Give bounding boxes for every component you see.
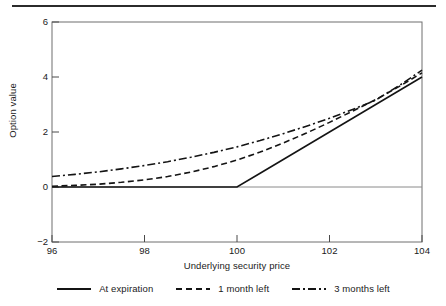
y-tick-label-6: 6 bbox=[26, 16, 48, 27]
series-line-1-month-left bbox=[52, 73, 422, 186]
y-tick-label-4: 4 bbox=[26, 71, 48, 82]
legend-label-at-expiration: At expiration bbox=[99, 283, 153, 294]
y-tick-label-0: 0 bbox=[26, 181, 48, 192]
x-axis-label: Underlying security price bbox=[52, 260, 422, 271]
legend-item-3-months-left: 3 months left bbox=[291, 283, 390, 294]
data-series-layer bbox=[52, 70, 422, 187]
x-tick-label-98: 98 bbox=[128, 245, 162, 256]
legend-swatch-dashdot-icon bbox=[291, 284, 327, 294]
legend-label-1-month-left: 1 month left bbox=[218, 283, 269, 294]
y-tick-label-2: 2 bbox=[26, 126, 48, 137]
x-tick-label-104: 104 bbox=[405, 245, 439, 256]
legend-swatch-dashed-icon bbox=[175, 284, 211, 294]
x-tick-label-96: 96 bbox=[35, 245, 69, 256]
plot-frame bbox=[52, 22, 422, 242]
figure-container: Option value Underlying security price 6… bbox=[0, 0, 446, 306]
y-axis-label: Option value bbox=[7, 71, 18, 151]
legend-item-at-expiration: At expiration bbox=[56, 283, 153, 294]
legend-item-1-month-left: 1 month left bbox=[175, 283, 269, 294]
series-line-3-months-left bbox=[52, 70, 422, 176]
chart-legend: At expiration 1 month left 3 months left bbox=[0, 283, 446, 294]
legend-label-3-months-left: 3 months left bbox=[334, 283, 390, 294]
x-axis-ticks bbox=[52, 235, 422, 242]
x-tick-label-100: 100 bbox=[220, 245, 254, 256]
y-axis-ticks bbox=[52, 22, 59, 242]
legend-swatch-solid-icon bbox=[56, 284, 92, 294]
x-tick-label-102: 102 bbox=[313, 245, 347, 256]
